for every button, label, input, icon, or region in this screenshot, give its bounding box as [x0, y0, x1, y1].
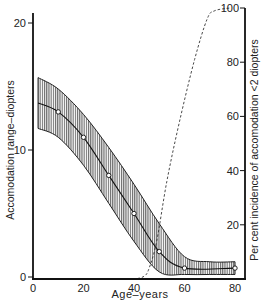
x-tick-label: 80 [229, 282, 241, 294]
y2-tick-label: 60 [227, 110, 239, 122]
x-tick-label: 60 [178, 282, 190, 294]
ticks: 0204060800102020406080100 [14, 2, 245, 294]
spread-band [38, 78, 235, 275]
y2-tick-label: 40 [227, 165, 239, 177]
accomodation-chart: 0204060800102020406080100 Age–years Acco… [0, 0, 264, 305]
data-point-marker [132, 211, 136, 215]
y-tick-label: 0 [20, 271, 26, 283]
y2-tick-label: 20 [227, 219, 239, 231]
hatched-band [38, 78, 235, 275]
y-axis-title: Accomodation range–diopters [4, 80, 16, 220]
data-point-marker [157, 249, 161, 253]
data-point-marker [182, 266, 186, 270]
data-point-marker [107, 173, 111, 177]
data-point-marker [233, 266, 237, 270]
y2-tick-label: 80 [227, 56, 239, 68]
data-point-marker [56, 110, 60, 114]
y-tick-label: 20 [14, 17, 26, 29]
x-axis-title: Age–years [111, 288, 168, 300]
x-tick-label: 0 [30, 282, 36, 294]
y2-axis-title: Per cent incidence of accomodation <2 di… [248, 39, 260, 261]
x-tick-label: 20 [77, 282, 89, 294]
data-point-marker [81, 135, 85, 139]
y2-tick-label: 100 [221, 2, 239, 14]
